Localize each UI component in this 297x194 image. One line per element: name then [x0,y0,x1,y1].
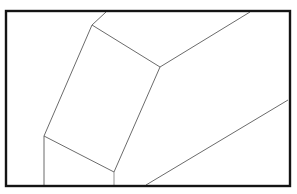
figure-canvas [0,0,297,194]
canvas-background [0,0,297,194]
line-drawing [0,0,297,194]
